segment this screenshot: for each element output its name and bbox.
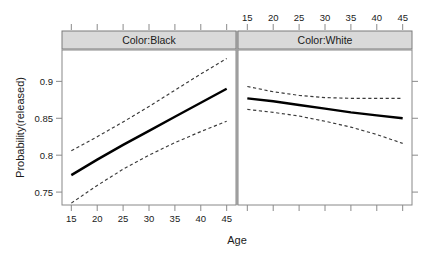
panel-frame	[238, 50, 412, 205]
x-axis-title: Age	[227, 234, 247, 246]
y-axis-title: Probability(released)	[14, 77, 26, 178]
x-tick-label: 45	[397, 12, 408, 23]
x-tick-label: 40	[195, 213, 206, 224]
y-tick-label: 0.8	[40, 150, 53, 161]
x-tick-label: 15	[66, 213, 77, 224]
x-tick-label: 20	[92, 213, 103, 224]
panel-white: Color:White15202530354045	[238, 12, 418, 211]
panel-black: Color:Black152025303540450.750.80.850.9	[35, 24, 237, 224]
confidence-band-line	[71, 58, 226, 150]
effect-plot: Color:Black152025303540450.750.80.850.9C…	[0, 0, 428, 256]
x-tick-label: 35	[170, 213, 181, 224]
x-tick-label: 45	[221, 213, 232, 224]
fit-line	[71, 89, 226, 175]
y-tick-label: 0.9	[40, 76, 53, 87]
x-tick-label: 25	[118, 213, 129, 224]
x-tick-label: 35	[346, 12, 357, 23]
x-tick-label: 15	[242, 12, 253, 23]
y-tick-label: 0.85	[35, 113, 54, 124]
x-tick-label: 30	[320, 12, 331, 23]
x-tick-label: 30	[144, 213, 155, 224]
x-tick-label: 20	[268, 12, 279, 23]
y-tick-label: 0.75	[35, 187, 54, 198]
x-tick-label: 25	[294, 12, 305, 23]
fit-line	[247, 98, 402, 118]
confidence-band-line	[247, 87, 402, 99]
strip-label: Color:Black	[122, 34, 176, 46]
strip-label: Color:White	[298, 34, 353, 46]
x-tick-label: 40	[371, 12, 382, 23]
